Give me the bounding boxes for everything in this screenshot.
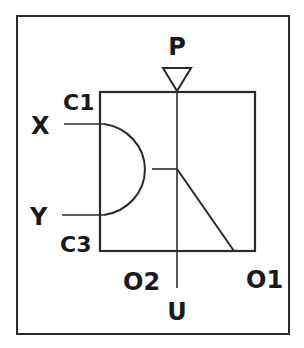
label-exhaust-u: U (167, 298, 187, 326)
label-c3: C3 (60, 232, 91, 257)
supply-triangle-icon (163, 68, 191, 91)
and-gate-arc (104, 124, 145, 215)
label-input-x: X (31, 112, 50, 140)
label-output-o2: O2 (123, 268, 160, 296)
label-supply-p: P (168, 33, 186, 61)
label-input-y: Y (29, 203, 48, 231)
label-output-o1: O1 (246, 266, 283, 294)
diagram-canvas: P C1 X Y C3 O2 O1 U (0, 0, 304, 348)
label-c1: C1 (63, 90, 94, 115)
diagonal-flow-line (177, 169, 234, 251)
